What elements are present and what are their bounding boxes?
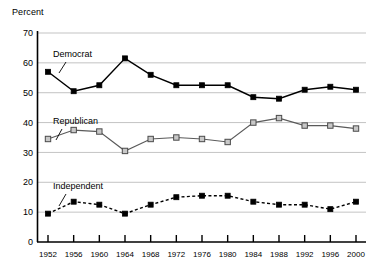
data-point-marker: [148, 136, 153, 141]
data-point-marker: [200, 193, 205, 198]
data-point-marker: [353, 126, 358, 131]
data-point-marker: [200, 83, 205, 88]
y-axis-tick-label: 50: [23, 88, 33, 98]
data-point-marker: [302, 202, 307, 207]
data-point-marker: [71, 199, 76, 204]
data-point-marker: [302, 123, 307, 128]
data-point-marker: [354, 87, 359, 92]
data-point-marker: [328, 207, 333, 212]
x-axis-tick-label: 1988: [270, 250, 288, 259]
x-axis-tick-label: 1976: [193, 250, 211, 259]
series-label-republican: Republican: [53, 116, 98, 126]
data-point-marker: [122, 148, 127, 153]
x-axis-tick-label: 1972: [167, 250, 185, 259]
data-point-marker: [174, 135, 179, 140]
data-point-marker: [225, 139, 230, 144]
data-point-marker: [123, 56, 128, 61]
series-label-independent: Independent: [53, 181, 104, 191]
data-point-marker: [97, 202, 102, 207]
data-point-marker: [174, 83, 179, 88]
data-point-marker: [276, 115, 281, 120]
y-axis-tick-label: 60: [23, 58, 33, 68]
x-axis-tick-label: 1952: [39, 250, 57, 259]
x-axis-tick-label: 1960: [90, 250, 108, 259]
x-axis-tick-label: 2000: [347, 250, 365, 259]
y-axis-tick-label: 20: [23, 177, 33, 187]
data-point-marker: [71, 89, 76, 94]
x-axis-tick-labels: 1952195619601964196819721976198019841988…: [39, 250, 365, 259]
series-label-democrat: Democrat: [53, 49, 93, 59]
data-point-marker: [97, 129, 102, 134]
y-axis-tick-label: 30: [23, 148, 33, 158]
data-point-marker: [45, 136, 50, 141]
x-axis-tick-label: 1968: [142, 250, 160, 259]
data-point-marker: [251, 95, 256, 100]
chart-container: Percent 010203040506070 1952195619601964…: [0, 0, 374, 278]
data-point-marker: [199, 136, 204, 141]
data-point-marker: [354, 199, 359, 204]
y-axis-tick-label: 10: [23, 207, 33, 217]
data-series-group: [45, 56, 358, 216]
x-axis-tick-label: 1992: [296, 250, 314, 259]
x-axis-tick-label: 1980: [219, 250, 237, 259]
data-point-marker: [71, 127, 76, 132]
data-point-marker: [251, 120, 256, 125]
x-axis-tick-label: 1996: [321, 250, 339, 259]
data-point-marker: [225, 193, 230, 198]
data-point-marker: [148, 202, 153, 207]
series-annotations: DemocratRepublicanIndependent: [53, 49, 104, 206]
data-point-marker: [328, 123, 333, 128]
data-point-marker: [277, 96, 282, 101]
y-axis-tick-label: 70: [23, 28, 33, 38]
series-label-pointer: [59, 194, 66, 206]
data-point-marker: [174, 195, 179, 200]
data-point-marker: [123, 211, 128, 216]
line-chart-plot: 010203040506070 195219561960196419681972…: [0, 0, 374, 278]
data-point-marker: [328, 84, 333, 89]
series-label-pointer: [59, 62, 66, 73]
data-point-marker: [277, 202, 282, 207]
data-point-marker: [46, 69, 51, 74]
data-point-marker: [251, 199, 256, 204]
y-axis-tick-label: 0: [28, 237, 33, 247]
x-axis-ticks: [48, 235, 356, 242]
y-axis-tick-label: 40: [23, 118, 33, 128]
data-point-marker: [302, 87, 307, 92]
data-point-marker: [46, 211, 51, 216]
x-axis-tick-label: 1964: [116, 250, 134, 259]
data-point-marker: [225, 83, 230, 88]
data-point-marker: [148, 72, 153, 77]
x-axis-tick-label: 1956: [65, 250, 83, 259]
data-point-marker: [97, 83, 102, 88]
x-axis-tick-label: 1984: [244, 250, 262, 259]
y-axis-tick-labels: 010203040506070: [23, 28, 33, 247]
